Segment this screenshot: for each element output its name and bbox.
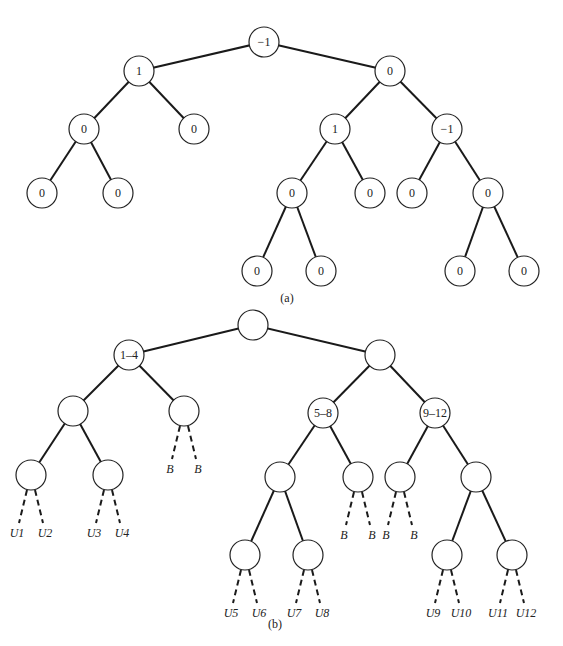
node-label: 5–8 <box>314 406 332 420</box>
dashed-edge <box>19 490 27 523</box>
node-label: 0 <box>318 264 324 278</box>
node-label: 0 <box>387 64 393 78</box>
tree-edge <box>253 325 380 355</box>
node-label: 0 <box>191 122 197 136</box>
tree-a-node: 0 <box>103 178 133 208</box>
dashed-edge <box>233 570 241 603</box>
tree-b-node <box>230 540 260 570</box>
dashed-edge <box>188 426 196 459</box>
node-circle <box>432 540 462 570</box>
node-circle <box>365 340 395 370</box>
node-circle <box>93 460 123 490</box>
node-label: 0 <box>289 186 295 200</box>
node-label: 0 <box>81 122 87 136</box>
tree-a-node: 0 <box>355 178 385 208</box>
caption-b: (b) <box>268 617 282 631</box>
tree-a-edges <box>42 42 524 271</box>
leaf-label: U1 <box>10 526 25 540</box>
node-circle <box>461 462 491 492</box>
tree-edge <box>129 325 253 355</box>
caption-a: (a) <box>280 291 293 305</box>
node-label: 0 <box>457 264 463 278</box>
tree-b-node <box>432 540 462 570</box>
dashed-edge <box>500 570 508 603</box>
dashed-edge <box>296 570 304 603</box>
node-circle <box>497 540 527 570</box>
node-label: 0 <box>485 186 491 200</box>
tree-a-node: 1 <box>124 56 154 86</box>
tree-a-node: 0 <box>445 256 475 286</box>
leaf-label: B <box>368 528 376 542</box>
dashed-edge <box>516 570 524 603</box>
tree-a-node: 0 <box>306 256 336 286</box>
tree-a-nodes: −110001−10000000000 <box>27 27 539 286</box>
tree-a-node: 0 <box>27 178 57 208</box>
dashed-edge <box>96 490 104 523</box>
leaf-label: U4 <box>115 526 130 540</box>
node-circle <box>169 396 199 426</box>
tree-b-node <box>238 310 268 340</box>
leaf-label: U2 <box>38 526 53 540</box>
tree-a-node: 0 <box>69 114 99 144</box>
node-circle <box>343 462 373 492</box>
dashed-edge <box>435 570 443 603</box>
node-label: 1–4 <box>120 348 138 362</box>
node-circle <box>385 462 415 492</box>
tree-b-node <box>16 460 46 490</box>
tree-edge <box>139 42 264 71</box>
tree-a-node: 0 <box>179 114 209 144</box>
tree-a-node: 1 <box>320 114 350 144</box>
dashed-edge <box>451 570 459 603</box>
tree-a-node: −1 <box>249 27 279 57</box>
dashed-edge <box>112 490 120 523</box>
leaf-label: B <box>194 462 202 476</box>
dashed-edge <box>249 570 257 603</box>
node-circle <box>58 396 88 426</box>
leaf-label: B <box>382 528 390 542</box>
tree-b-node <box>93 460 123 490</box>
leaf-label: U11 <box>488 606 508 620</box>
node-label: 1 <box>136 64 142 78</box>
leaf-label: U12 <box>516 606 537 620</box>
node-circle <box>265 462 295 492</box>
tree-a-node: −1 <box>432 114 462 144</box>
dashed-edge <box>312 570 320 603</box>
tree-edge <box>264 42 390 71</box>
leaf-label: U8 <box>315 606 330 620</box>
node-label: 0 <box>39 186 45 200</box>
node-circle <box>16 460 46 490</box>
tree-diagrams: −110001−10000000000 (a) U1U2U3U4BBBBBBU5… <box>0 0 563 646</box>
node-label: 9–12 <box>423 406 447 420</box>
tree-a-node: 0 <box>509 256 539 286</box>
dashed-edge <box>346 492 354 525</box>
node-label: −1 <box>441 122 454 136</box>
tree-b-edges <box>31 325 512 555</box>
node-label: 1 <box>332 122 338 136</box>
tree-a-node: 0 <box>397 178 427 208</box>
tree-b-node: 1–4 <box>114 340 144 370</box>
node-label: 0 <box>409 186 415 200</box>
leaf-label: U5 <box>224 606 239 620</box>
tree-b-node <box>58 396 88 426</box>
tree-b-node <box>461 462 491 492</box>
leaf-label: U6 <box>252 606 267 620</box>
dashed-edge <box>388 492 396 525</box>
tree-b-node: 9–12 <box>420 398 450 428</box>
leaf-label: U3 <box>87 526 102 540</box>
tree-b-node <box>343 462 373 492</box>
leaf-label: U9 <box>426 606 441 620</box>
leaf-label: B <box>410 528 418 542</box>
tree-b-node <box>365 340 395 370</box>
node-label: 0 <box>115 186 121 200</box>
node-circle <box>293 540 323 570</box>
node-label: −1 <box>258 35 271 49</box>
tree-a-node: 0 <box>242 256 272 286</box>
leaf-label: B <box>166 462 174 476</box>
tree-a-node: 0 <box>375 56 405 86</box>
node-label: 0 <box>254 264 260 278</box>
tree-b-node <box>293 540 323 570</box>
tree-b-node <box>265 462 295 492</box>
dashed-edge <box>35 490 43 523</box>
node-label: 0 <box>367 186 373 200</box>
tree-b-node <box>497 540 527 570</box>
